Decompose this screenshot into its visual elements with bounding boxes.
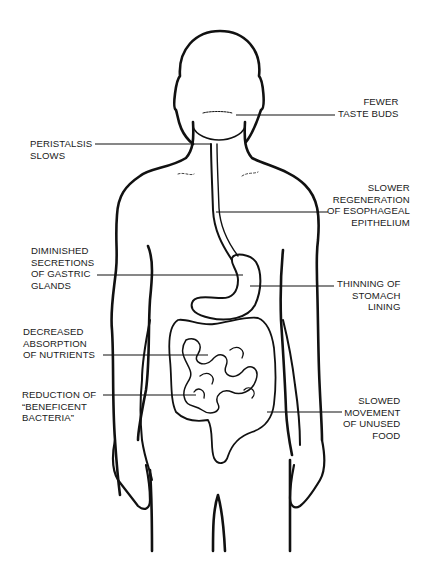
label-stomach-lining: THINNING OF STOMACH LINING xyxy=(337,278,400,313)
right-hand xyxy=(290,440,324,507)
mouth xyxy=(203,112,232,114)
label-esophageal-epithelium: SLOWER REGENERATION OF ESOPHAGEAL EPITHE… xyxy=(327,182,410,228)
chin-outline xyxy=(193,127,245,140)
clavicle-left xyxy=(178,173,194,174)
label-beneficent-bacteria: REDUCTION OF “BENEFICENT BACTERIA” xyxy=(22,389,96,424)
head-outline xyxy=(174,31,263,144)
clavicle-right xyxy=(242,172,258,176)
label-unused-food: SLOWED MOVEMENT OF UNUSED FOOD xyxy=(343,395,400,441)
left-torso-inner xyxy=(141,320,153,480)
label-fewer-taste-buds: FEWER TASTE BUDS xyxy=(338,96,399,119)
label-peristalsis-slows: PERISTALSIS SLOWS xyxy=(30,138,92,161)
left-body-outline xyxy=(111,122,193,495)
left-leg-outline xyxy=(150,470,152,551)
label-gastric-glands: DIMINISHED SECRETIONS OF GASTRIC GLANDS xyxy=(31,245,94,291)
small-intestine xyxy=(183,339,257,413)
large-intestine xyxy=(169,318,275,463)
label-absorption: DECREASED ABSORPTION OF NUTRIENTS xyxy=(23,326,95,361)
stomach xyxy=(192,255,261,320)
leg-inner xyxy=(213,495,225,551)
right-body-outline xyxy=(245,122,322,440)
